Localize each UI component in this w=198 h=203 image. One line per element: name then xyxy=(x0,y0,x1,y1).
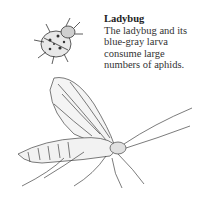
caption-title: Ladybug xyxy=(104,13,198,25)
ladybug-illustration xyxy=(30,14,86,66)
caption-line: consume large xyxy=(104,48,198,60)
caption-line: blue-gray larva xyxy=(104,36,198,48)
ladybug-caption: Ladybug The ladybug and its blue-gray la… xyxy=(104,13,198,71)
caption-line: numbers of aphids. xyxy=(104,59,198,71)
lacewing-illustration xyxy=(14,74,194,194)
caption-line: The ladybug and its xyxy=(104,25,198,37)
